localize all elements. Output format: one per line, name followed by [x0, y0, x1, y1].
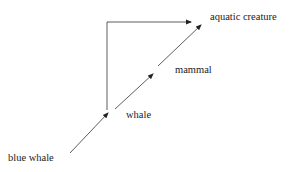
edge-mammal-to-aquatic-creature [158, 25, 201, 66]
edge-whale-to-mammal [115, 74, 153, 109]
node-label-blue-whale: blue whale [8, 153, 54, 164]
node-label-mammal: mammal [175, 65, 212, 76]
diagram-canvas: blue whale whale mammal aquatic creature [0, 0, 292, 172]
edge-blue-whale-to-whale [70, 113, 108, 153]
edges-layer [0, 0, 292, 172]
node-label-aquatic-creature: aquatic creature [210, 12, 277, 23]
node-label-whale: whale [126, 110, 151, 121]
